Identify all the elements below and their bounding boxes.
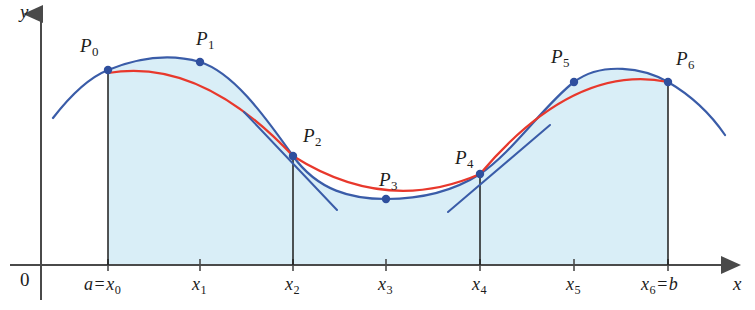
point-label-p0: P0 [80, 36, 99, 59]
sample-point-p0 [104, 66, 112, 74]
tick-label-x5: x5 [566, 275, 581, 296]
simpsons-rule-figure: y x 0 P0P1P2P3P4P5P6 a=x0x1x2x3x4x5x6=b [0, 0, 755, 310]
tick-label-x6: x6=b [641, 275, 678, 296]
sample-point-p6 [664, 78, 672, 86]
tick-label-x1: x1 [192, 275, 207, 296]
sample-point-p2 [289, 152, 297, 160]
tick-label-x0: a=x0 [84, 275, 121, 296]
sample-point-p1 [196, 58, 204, 66]
y-axis-label: y [20, 2, 28, 21]
point-label-p3: P3 [379, 170, 398, 193]
point-label-p4: P4 [455, 148, 474, 171]
shaded-area-region [108, 58, 668, 265]
tick-label-x2: x2 [285, 275, 300, 296]
sample-point-p3 [382, 195, 390, 203]
x-axis-label: x [733, 274, 741, 293]
point-label-p6: P6 [676, 49, 695, 72]
sample-point-p4 [476, 170, 484, 178]
tick-label-x3: x3 [378, 275, 393, 296]
sample-point-p5 [570, 78, 578, 86]
origin-label: 0 [20, 270, 30, 289]
tick-label-x4: x4 [472, 275, 487, 296]
point-label-p5: P5 [551, 47, 570, 70]
point-label-p1: P1 [196, 29, 215, 52]
figure-canvas [0, 0, 755, 310]
point-label-p2: P2 [303, 126, 322, 149]
